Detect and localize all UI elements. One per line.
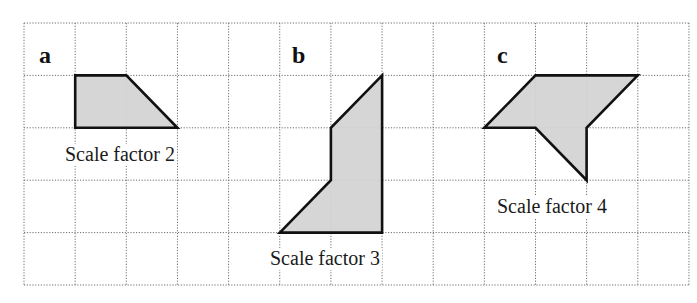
part-label-a: a <box>39 42 51 68</box>
scale-factor-caption-c: Scale factor 4 <box>497 195 607 217</box>
part-label-c: c <box>497 42 508 68</box>
scale-factor-caption-a: Scale factor 2 <box>65 143 175 165</box>
enlargement-grid-diagram: a b c Scale factor 2 Scale factor 3 Scal… <box>0 0 697 303</box>
part-label-b: b <box>292 42 305 68</box>
scale-factor-caption-b: Scale factor 3 <box>270 247 380 269</box>
shape-a <box>75 75 177 127</box>
shape-c <box>484 75 638 180</box>
